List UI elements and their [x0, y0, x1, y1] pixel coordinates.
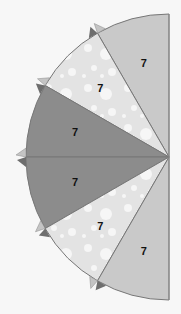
slice-value-label: 7	[72, 176, 78, 188]
slice-value-label: 7	[141, 57, 147, 69]
half-pie-chart: 777777	[0, 0, 181, 314]
slice-value-label: 7	[97, 220, 103, 232]
slice-value-label: 7	[97, 82, 103, 94]
slice-value-label: 7	[72, 126, 78, 138]
slice-value-label: 7	[141, 245, 147, 257]
arc-marker-icon	[17, 157, 26, 167]
arc-marker-icon	[16, 148, 26, 157]
